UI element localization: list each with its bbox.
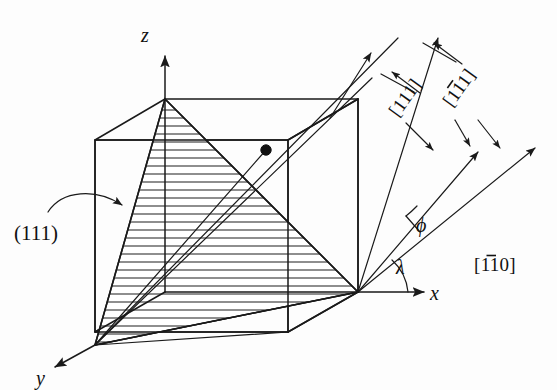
direction-label-1b10-text: [110]	[474, 254, 516, 275]
crystal-diagram-svg: z x y (111) ϕ λ [110] [111] [	[0, 0, 557, 390]
y-axis-label: y	[34, 367, 45, 390]
lambda-angle-label: λ	[395, 256, 405, 278]
phi-angle-label: ϕ	[416, 214, 426, 237]
direction-label-1b10: [110]	[474, 254, 516, 275]
x-axis-label: x	[429, 282, 439, 304]
plane-label-111: (111)	[14, 221, 58, 245]
figure-root: z x y (111) ϕ λ [110] [111] [	[0, 0, 557, 390]
z-axis-label: z	[140, 24, 149, 46]
vertex-dot-marker	[261, 145, 271, 155]
